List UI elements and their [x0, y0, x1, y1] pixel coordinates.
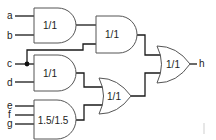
input-label-d: d — [7, 77, 13, 88]
output-label-h: h — [199, 58, 205, 69]
or-gate-2-label: 1/1 — [166, 59, 180, 70]
input-label-b: b — [7, 30, 13, 41]
or-gate-1-label: 1/1 — [107, 91, 121, 102]
input-label-a: a — [7, 10, 13, 21]
input-label-g: g — [7, 118, 13, 129]
wire-or1-or2 — [131, 73, 162, 96]
logic-circuit-diagram: 1/1 1/1 1/1 1.5/1.5 1/1 1/1 a b c d e f … — [0, 0, 216, 140]
and-gate-3-label: 1/1 — [43, 68, 57, 79]
and-gate-2-label: 1/1 — [105, 29, 119, 40]
wire-and2-or2 — [137, 35, 162, 55]
input-label-c: c — [7, 58, 12, 69]
and-gate-1-label: 1/1 — [43, 20, 57, 31]
junction-dot — [25, 62, 30, 67]
and-gate-4-label: 1.5/1.5 — [38, 115, 69, 126]
